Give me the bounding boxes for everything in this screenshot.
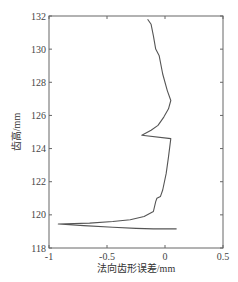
y-tick-label: 120 <box>31 209 46 220</box>
y-tick-label: 124 <box>31 143 46 154</box>
plot-frame <box>49 16 223 248</box>
data-series <box>58 19 176 229</box>
x-tick-label: 0.5 <box>217 251 230 262</box>
y-tick-label: 122 <box>31 176 46 187</box>
y-tick-label: 130 <box>31 44 46 55</box>
x-tick-label: -0.5 <box>99 251 115 262</box>
x-tick-label: -1 <box>45 251 53 262</box>
line-chart: 118120122124126128130132 -1-0.500.5 法向齿形… <box>0 0 238 282</box>
series-line <box>58 19 176 229</box>
y-axis-title: 齿高/mm <box>10 113 22 152</box>
y-tick-label: 126 <box>31 110 46 121</box>
plot-border <box>49 16 223 248</box>
y-tick-label: 132 <box>31 11 46 22</box>
y-tick-label: 128 <box>31 77 46 88</box>
x-axis-title: 法向齿形误差/mm <box>97 262 176 274</box>
y-axis-ticks: 118120122124126128130132 <box>31 11 223 254</box>
x-tick-label: 0 <box>163 251 168 262</box>
y-tick-label: 118 <box>31 243 46 254</box>
